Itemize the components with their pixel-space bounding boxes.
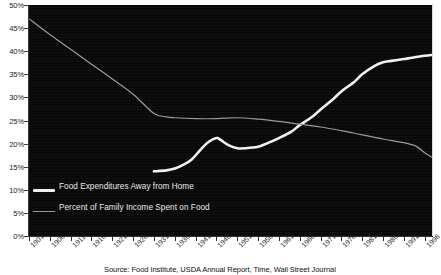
x-axis-tick-mark <box>91 237 92 241</box>
y-axis-tick-label: 15% <box>9 162 24 171</box>
y-axis-tick-label: 20% <box>9 139 24 148</box>
x-axis-tick-mark <box>321 237 322 241</box>
plot-top-border <box>29 4 433 5</box>
line-percent-family-income <box>29 19 433 158</box>
legend-label-food-away: Food Expenditures Away from Home <box>59 182 194 191</box>
legend-swatch-income-food <box>33 211 55 212</box>
x-axis-tick-mark <box>341 237 342 241</box>
y-axis-tick-label: 45% <box>9 24 24 33</box>
y-axis-tick-label: 30% <box>9 93 24 102</box>
y-axis-tick-label: 40% <box>9 47 24 56</box>
x-axis-tick-mark <box>133 237 134 241</box>
x-axis-tick-mark <box>196 237 197 241</box>
x-axis-tick-mark <box>237 237 238 241</box>
x-axis-tick-mark <box>216 237 217 241</box>
x-axis-tick-mark <box>29 237 30 241</box>
y-axis-tick-label: 10% <box>9 185 24 194</box>
line-food-away-from-home <box>154 55 433 171</box>
x-axis-tick-mark <box>383 237 384 241</box>
x-axis-tick-mark <box>258 237 259 241</box>
x-axis-tick-mark <box>154 237 155 241</box>
legend-label-income-food: Percent of Family Income Spent on Food <box>59 203 210 212</box>
chart-legend: Food Expenditures Away from Home Percent… <box>33 180 263 222</box>
y-axis-tick-label: 35% <box>9 70 24 79</box>
y-axis-tick-label: 5% <box>13 208 24 217</box>
legend-swatch-food-away <box>33 189 55 192</box>
x-axis-tick-mark <box>112 237 113 241</box>
x-axis-tick-mark <box>71 237 72 241</box>
x-axis-tick-mark <box>404 237 405 241</box>
y-axis-tick-label: 0% <box>13 232 24 241</box>
legend-item-food-away: Food Expenditures Away from Home <box>33 180 263 201</box>
y-axis-labels: 50%45%40%35%30%25%20%15%10%5%0% <box>0 0 24 275</box>
x-axis-tick-mark <box>279 237 280 241</box>
y-axis-tick-label: 25% <box>9 116 24 125</box>
plot-right-border <box>432 4 433 237</box>
source-note: Source: Food Institute, USDA Annual Repo… <box>104 265 336 274</box>
x-axis-tick-mark <box>362 237 363 241</box>
x-axis-tick-mark <box>300 237 301 241</box>
x-axis-tick-mark <box>50 237 51 241</box>
x-axis-tick-mark <box>175 237 176 241</box>
x-axis-tick-mark <box>425 237 426 241</box>
y-axis-tick-label: 50% <box>9 1 24 10</box>
legend-item-income-food: Percent of Family Income Spent on Food <box>33 201 263 222</box>
